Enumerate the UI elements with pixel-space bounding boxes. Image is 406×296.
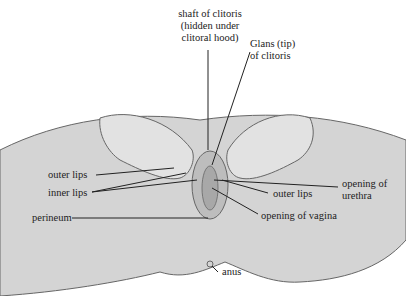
label-outer-lips-left: outer lips bbox=[48, 169, 87, 181]
label-glans: Glans (tip) of clitoris bbox=[250, 38, 295, 62]
label-opening-urethra: opening of urethra bbox=[342, 178, 387, 202]
label-inner-lips: inner lips bbox=[48, 187, 87, 199]
diagram: shaft of clitoris (hidden under clitoral… bbox=[0, 0, 406, 296]
label-glans-line2: of clitoris bbox=[250, 50, 295, 62]
illustration bbox=[0, 0, 406, 296]
label-opening-vagina: opening of vagina bbox=[261, 210, 337, 222]
label-shaft-line3: clitoral hood) bbox=[170, 32, 250, 44]
label-perineum: perineum bbox=[32, 212, 72, 224]
label-shaft: shaft of clitoris (hidden under clitoral… bbox=[170, 8, 250, 44]
leader-anus bbox=[212, 266, 218, 272]
inner-region bbox=[202, 166, 218, 210]
label-urethra-line2: urethra bbox=[342, 190, 387, 202]
label-shaft-line2: (hidden under bbox=[170, 20, 250, 32]
label-urethra-line1: opening of bbox=[342, 178, 387, 190]
label-glans-line1: Glans (tip) bbox=[250, 38, 295, 50]
label-anus: anus bbox=[222, 266, 241, 278]
label-outer-lips-right: outer lips bbox=[273, 188, 312, 200]
label-shaft-line1: shaft of clitoris bbox=[170, 8, 250, 20]
